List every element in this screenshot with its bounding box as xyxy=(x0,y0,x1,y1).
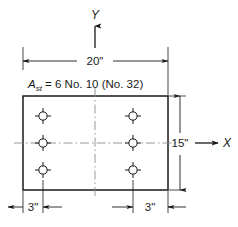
bar-bot-left xyxy=(35,162,51,178)
bar-mid-right xyxy=(125,135,141,151)
x-axis-label: X xyxy=(222,136,232,150)
height-dimension-label: 15" xyxy=(172,137,189,149)
asteel-value: 6 No. 10 (No. 32) xyxy=(55,78,143,90)
reinforcement-annotation: Ast = 6 No. 10 (No. 32) xyxy=(27,78,143,93)
bar-mid-left xyxy=(35,135,51,151)
bar-top-left xyxy=(35,108,51,124)
asteel-equals: = xyxy=(42,78,55,90)
y-axis-label: Y xyxy=(91,8,100,22)
cover-dimensions-group: 3" 3" xyxy=(8,180,186,213)
cover-right-label: 3" xyxy=(145,201,155,213)
bar-bot-right xyxy=(125,162,141,178)
reinforcement-label: Ast = 6 No. 10 (No. 32) xyxy=(27,78,143,93)
asteel-symbol: A xyxy=(27,78,36,90)
figure-canvas: Y 20" Ast = 6 No. 10 (No. 32) xyxy=(0,0,238,227)
cover-left-label: 3" xyxy=(28,201,38,213)
y-axis-group: Y xyxy=(91,8,100,48)
section-figure: Y 20" Ast = 6 No. 10 (No. 32) xyxy=(0,0,238,227)
x-axis-group: X xyxy=(195,136,232,150)
width-dimension-label: 20" xyxy=(87,55,104,67)
bar-top-right xyxy=(125,108,141,124)
height-dimension-group: 15" xyxy=(169,96,188,190)
